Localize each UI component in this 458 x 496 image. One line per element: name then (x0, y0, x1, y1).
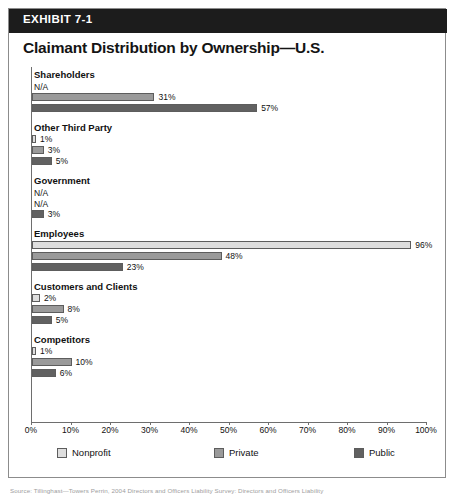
legend-swatch-icon (354, 448, 364, 458)
legend-swatch-icon (57, 448, 67, 458)
bar-value-label: 10% (76, 357, 93, 367)
bar-value-label: 5% (56, 315, 68, 325)
legend-label: Private (229, 447, 259, 458)
bar-value-label: 31% (158, 92, 175, 102)
axis-tick-label: 100% (415, 425, 437, 435)
category-label: Competitors (34, 334, 90, 345)
bar-value-na: N/A (34, 199, 48, 209)
bar-value-label: 96% (415, 240, 432, 250)
chart-bar-row: 5% (32, 316, 427, 324)
category-label: Shareholders (34, 69, 95, 80)
bar-value-label: 6% (60, 368, 72, 378)
bar-value-label: 2% (44, 293, 56, 303)
bar-value-na: N/A (34, 188, 48, 198)
legend-item[interactable]: Private (214, 447, 259, 458)
bar-value-label: 57% (261, 103, 278, 113)
axis-tick-label: 70% (299, 425, 316, 435)
chart-bar-row: 10% (32, 358, 427, 366)
chart-bar-row: 1% (32, 135, 427, 143)
chart-bar (32, 358, 72, 366)
axis-tick-label: 40% (180, 425, 197, 435)
chart-bar (32, 252, 222, 260)
bar-value-label: 5% (56, 156, 68, 166)
chart-bar-row: 8% (32, 305, 427, 313)
exhibit-card: EXHIBIT 7-1 Claimant Distribution by Own… (8, 8, 446, 478)
category-label: Other Third Party (34, 122, 112, 133)
chart-bar (32, 316, 52, 324)
chart-bar (32, 135, 36, 143)
chart-bar-row: 3% (32, 146, 427, 154)
legend-item[interactable]: Nonprofit (57, 447, 111, 458)
exhibit-header-bar: EXHIBIT 7-1 (9, 9, 447, 33)
chart-legend: NonprofitPrivatePublic (9, 447, 447, 467)
bar-chart-plot-area: ShareholdersN/A31%57%Other Third Party1%… (31, 67, 426, 422)
bar-value-label: 8% (68, 304, 80, 314)
axis-tick-label: 50% (220, 425, 237, 435)
chart-bar (32, 369, 56, 377)
chart-bar (32, 157, 52, 165)
chart-bar-row: 6% (32, 369, 427, 377)
category-label: Customers and Clients (34, 281, 137, 292)
chart-bar-row: 2% (32, 294, 427, 302)
bar-value-label: 48% (226, 251, 243, 261)
legend-item[interactable]: Public (354, 447, 395, 458)
axis-tick-label: 60% (259, 425, 276, 435)
axis-tick-label: 90% (378, 425, 395, 435)
legend-label: Nonprofit (72, 447, 111, 458)
chart-bar-row: 96% (32, 241, 427, 249)
chart-bar-row: 1% (32, 347, 427, 355)
category-label: Government (34, 175, 90, 186)
axis-tick-label: 80% (338, 425, 355, 435)
bar-value-label: 23% (127, 262, 144, 272)
exhibit-badge: EXHIBIT 7-1 (23, 13, 93, 25)
chart-bar-row: 57% (32, 104, 427, 112)
chart-bar (32, 210, 44, 218)
bar-value-label: 3% (48, 145, 60, 155)
page-title: Claimant Distribution by Ownership—U.S. (23, 39, 324, 57)
source-note: Source: Tillinghast—Towers Perrin, 2004 … (10, 487, 456, 496)
legend-swatch-icon (214, 448, 224, 458)
bar-value-na: N/A (34, 82, 48, 92)
legend-label: Public (369, 447, 395, 458)
chart-bar (32, 263, 123, 271)
chart-bar (32, 347, 36, 355)
bar-value-label: 1% (40, 134, 52, 144)
bar-value-label: 3% (48, 209, 60, 219)
chart-bar (32, 241, 411, 249)
category-label: Employees (34, 228, 84, 239)
chart-bar-row: 5% (32, 157, 427, 165)
chart-bar-row: 31% (32, 93, 427, 101)
chart-bar (32, 294, 40, 302)
chart-bar (32, 93, 154, 101)
chart-bar-row: 48% (32, 252, 427, 260)
chart-x-axis-ticks: 0%10%20%30%40%50%60%70%80%90%100% (9, 425, 447, 439)
bar-value-label: 1% (40, 346, 52, 356)
axis-tick-label: 20% (101, 425, 118, 435)
axis-tick-label: 10% (62, 425, 79, 435)
chart-bar-row: 23% (32, 263, 427, 271)
chart-bar (32, 104, 257, 112)
chart-bar-row: 3% (32, 210, 427, 218)
axis-tick-label: 0% (25, 425, 37, 435)
chart-bar (32, 146, 44, 154)
chart-bar (32, 305, 64, 313)
axis-tick-label: 30% (141, 425, 158, 435)
